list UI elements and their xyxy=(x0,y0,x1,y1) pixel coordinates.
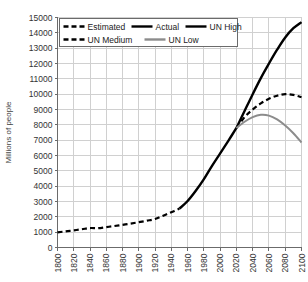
x-tick-label: 1940 xyxy=(166,253,176,272)
x-tick-label: 2100 xyxy=(297,253,307,272)
y-tick-label: 13000 xyxy=(29,43,53,53)
legend-label-actual: Actual xyxy=(156,22,180,32)
y-tick-label: 8000 xyxy=(34,120,53,130)
y-tick-label: 14000 xyxy=(29,28,53,38)
y-tick-label: 2000 xyxy=(34,212,53,222)
population-projection-chart: 0100020003000400050006000700080009000100… xyxy=(0,0,308,282)
x-tick-label: 2040 xyxy=(248,253,258,272)
x-tick-label: 2000 xyxy=(215,253,225,272)
y-axis-title: Millions of people xyxy=(4,101,13,163)
x-tick-label: 2080 xyxy=(280,253,290,272)
legend-label-un-high: UN High xyxy=(210,22,242,32)
x-tick-label: 1980 xyxy=(199,253,209,272)
x-tick-label: 2060 xyxy=(264,253,274,272)
x-tick-label: 1960 xyxy=(183,253,193,272)
x-tick-label: 1820 xyxy=(69,253,79,272)
x-tick-label: 1920 xyxy=(150,253,160,272)
y-tick-label: 15000 xyxy=(29,13,53,23)
y-tick-label: 6000 xyxy=(34,151,53,161)
y-tick-label: 11000 xyxy=(29,74,52,84)
x-tick-label: 1880 xyxy=(118,253,128,272)
y-tick-label: 5000 xyxy=(34,166,53,176)
y-tick-label: 0 xyxy=(48,243,53,253)
legend-label-estimated: Estimated xyxy=(88,22,126,32)
x-tick-label: 2020 xyxy=(231,253,241,272)
y-tick-label: 9000 xyxy=(34,105,53,115)
y-tick-label: 1000 xyxy=(34,227,53,237)
y-tick-label: 10000 xyxy=(29,89,53,99)
chart-canvas: 0100020003000400050006000700080009000100… xyxy=(0,0,308,282)
x-tick-label: 1800 xyxy=(53,253,63,272)
y-tick-label: 12000 xyxy=(29,59,53,69)
x-tick-label: 1860 xyxy=(101,253,111,272)
y-tick-label: 7000 xyxy=(34,135,53,145)
x-tick-label: 1900 xyxy=(134,253,144,272)
y-tick-label: 4000 xyxy=(34,181,53,191)
x-tick-label: 1840 xyxy=(85,253,95,272)
y-tick-label: 3000 xyxy=(34,197,53,207)
legend-label-un-low: UN Low xyxy=(169,35,200,45)
legend-label-un-medium: UN Medium xyxy=(88,35,133,45)
